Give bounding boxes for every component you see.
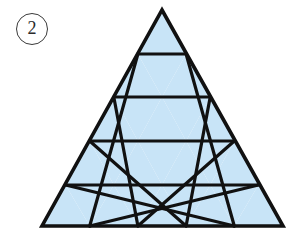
- triangle-cell-up: [138, 10, 186, 54]
- subdivided-triangle-diagram: [0, 0, 305, 234]
- triangle-cell-group: [42, 10, 283, 226]
- figure-container: 2: [0, 0, 305, 234]
